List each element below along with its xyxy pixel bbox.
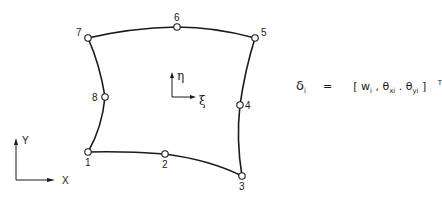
formula-w-sub: i <box>370 87 372 95</box>
node-label-5: 5 <box>261 27 267 38</box>
x-arrow-icon <box>47 178 55 182</box>
x-axis-label: X <box>62 175 69 186</box>
formula-lhs-sub: i <box>304 87 306 95</box>
xi-arrow-icon <box>190 95 196 99</box>
nodal-dof-formula: δi = [ wi , θxi . θyi ] T <box>296 78 442 95</box>
formula-lhs: δ <box>296 78 304 93</box>
local-axes: η ξ <box>170 69 206 108</box>
formula-close-bracket: ] <box>422 80 426 93</box>
node-label-8: 8 <box>92 92 98 103</box>
node-label-3: 3 <box>239 181 245 192</box>
formula-equals: = <box>323 80 332 93</box>
node-label-4: 4 <box>245 100 251 111</box>
formula-sep1: , <box>375 80 379 93</box>
formula-open-bracket: [ <box>353 80 357 93</box>
global-axes: Y X <box>14 135 69 186</box>
node-markers <box>85 24 258 179</box>
node-7 <box>85 35 91 41</box>
node-3 <box>239 173 245 179</box>
y-arrow-icon <box>14 138 18 145</box>
formula-sep2: . <box>399 80 403 93</box>
node-5 <box>252 35 258 41</box>
eta-arrow-icon <box>170 72 174 78</box>
element-boundary <box>88 27 255 176</box>
node-6 <box>174 24 180 30</box>
node-label-6: 6 <box>174 12 180 23</box>
node-label-7: 7 <box>76 27 82 38</box>
xi-label: ξ <box>199 94 206 108</box>
eta-label: η <box>177 69 184 83</box>
formula-theta-y-sub: yi <box>412 87 418 95</box>
node-8 <box>102 94 108 100</box>
formula-transpose: T <box>438 79 442 87</box>
node-label-1: 1 <box>85 157 91 168</box>
node-1 <box>85 149 91 155</box>
formula-w: w <box>361 80 370 93</box>
node-4 <box>237 102 243 108</box>
node-label-2: 2 <box>162 159 168 170</box>
formula-theta-x-sub: xi <box>389 87 395 95</box>
node-2 <box>162 151 168 157</box>
y-axis-label: Y <box>22 135 29 146</box>
